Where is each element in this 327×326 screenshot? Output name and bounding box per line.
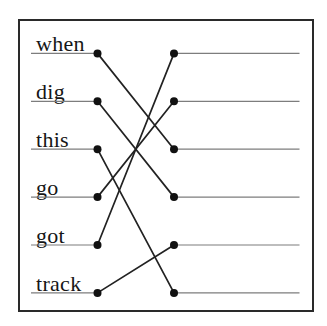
matching-lines-svg (0, 0, 327, 326)
left-dot (94, 49, 102, 57)
connector-line (98, 245, 175, 293)
right-dot (170, 145, 178, 153)
right-dot (170, 193, 178, 201)
right-dot (170, 289, 178, 297)
left-dot (94, 145, 102, 153)
right-dot (170, 49, 178, 57)
right-dot (170, 97, 178, 105)
left-dot (94, 289, 102, 297)
left-dot (94, 193, 102, 201)
connector-line (98, 53, 175, 245)
right-dot (170, 241, 178, 249)
connector-line (98, 149, 175, 293)
worksheet: whendigthisgogottrack (0, 0, 327, 326)
connector-line (98, 53, 175, 149)
left-dot (94, 241, 102, 249)
left-dot (94, 97, 102, 105)
